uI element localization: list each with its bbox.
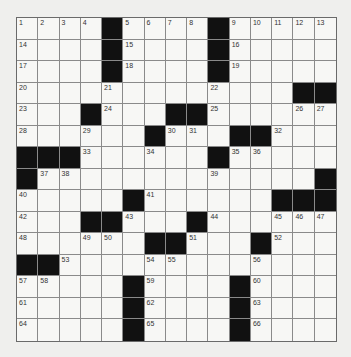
crossword-cell[interactable]: 14 [17,40,38,62]
crossword-cell[interactable] [187,83,208,105]
crossword-cell[interactable] [315,40,336,62]
crossword-cell[interactable] [102,169,123,191]
crossword-cell[interactable] [145,104,166,126]
crossword-cell[interactable]: 3 [60,18,81,40]
crossword-cell[interactable]: 24 [102,104,123,126]
crossword-cell[interactable]: 51 [187,233,208,255]
crossword-cell[interactable]: 22 [208,83,229,105]
crossword-cell[interactable] [166,61,187,83]
crossword-cell[interactable]: 18 [123,61,144,83]
crossword-cell[interactable]: 49 [81,233,102,255]
crossword-cell[interactable]: 16 [230,40,251,62]
crossword-cell[interactable] [166,298,187,320]
crossword-cell[interactable] [145,40,166,62]
crossword-cell[interactable] [166,212,187,234]
crossword-cell[interactable]: 36 [251,147,272,169]
crossword-cell[interactable] [230,104,251,126]
crossword-cell[interactable]: 20 [17,83,38,105]
crossword-cell[interactable] [81,276,102,298]
crossword-cell[interactable] [272,104,293,126]
crossword-cell[interactable]: 42 [17,212,38,234]
crossword-cell[interactable]: 15 [123,40,144,62]
crossword-cell[interactable]: 40 [17,190,38,212]
crossword-cell[interactable]: 29 [81,126,102,148]
crossword-cell[interactable]: 5 [123,18,144,40]
crossword-cell[interactable] [272,255,293,277]
crossword-cell[interactable]: 54 [145,255,166,277]
crossword-cell[interactable]: 23 [17,104,38,126]
crossword-cell[interactable] [187,298,208,320]
crossword-cell[interactable] [315,233,336,255]
crossword-cell[interactable] [293,169,314,191]
crossword-cell[interactable] [293,233,314,255]
crossword-cell[interactable] [315,276,336,298]
crossword-cell[interactable] [315,319,336,341]
crossword-cell[interactable] [123,255,144,277]
crossword-cell[interactable]: 13 [315,18,336,40]
crossword-cell[interactable] [208,319,229,341]
crossword-cell[interactable] [81,319,102,341]
crossword-cell[interactable] [272,319,293,341]
crossword-cell[interactable] [230,233,251,255]
crossword-cell[interactable]: 63 [251,298,272,320]
crossword-cell[interactable] [38,233,59,255]
crossword-cell[interactable] [102,298,123,320]
crossword-cell[interactable] [272,83,293,105]
crossword-cell[interactable] [208,298,229,320]
crossword-cell[interactable] [315,255,336,277]
crossword-cell[interactable] [166,169,187,191]
crossword-cell[interactable] [60,298,81,320]
crossword-cell[interactable] [272,40,293,62]
crossword-cell[interactable] [187,169,208,191]
crossword-cell[interactable] [123,147,144,169]
crossword-cell[interactable]: 2 [38,18,59,40]
crossword-cell[interactable] [38,61,59,83]
crossword-cell[interactable]: 48 [17,233,38,255]
crossword-cell[interactable] [187,276,208,298]
crossword-cell[interactable] [293,61,314,83]
crossword-cell[interactable] [81,169,102,191]
crossword-cell[interactable] [187,319,208,341]
crossword-cell[interactable] [251,212,272,234]
crossword-cell[interactable] [60,319,81,341]
crossword-cell[interactable] [123,126,144,148]
crossword-cell[interactable] [102,126,123,148]
crossword-cell[interactable]: 21 [102,83,123,105]
crossword-cell[interactable] [293,147,314,169]
crossword-cell[interactable] [38,104,59,126]
crossword-cell[interactable] [230,212,251,234]
crossword-cell[interactable] [38,83,59,105]
crossword-cell[interactable] [230,190,251,212]
crossword-cell[interactable]: 57 [17,276,38,298]
crossword-cell[interactable]: 4 [81,18,102,40]
crossword-cell[interactable] [81,40,102,62]
crossword-cell[interactable]: 38 [60,169,81,191]
crossword-cell[interactable] [208,255,229,277]
crossword-cell[interactable]: 35 [230,147,251,169]
crossword-cell[interactable]: 19 [230,61,251,83]
crossword-cell[interactable] [60,104,81,126]
crossword-cell[interactable] [208,233,229,255]
crossword-cell[interactable] [81,255,102,277]
crossword-cell[interactable]: 37 [38,169,59,191]
crossword-cell[interactable] [251,169,272,191]
crossword-cell[interactable] [123,169,144,191]
crossword-cell[interactable] [60,190,81,212]
crossword-cell[interactable] [145,83,166,105]
crossword-cell[interactable]: 33 [81,147,102,169]
crossword-cell[interactable] [166,276,187,298]
crossword-cell[interactable]: 50 [102,233,123,255]
crossword-cell[interactable] [272,61,293,83]
crossword-cell[interactable]: 61 [17,298,38,320]
crossword-cell[interactable] [60,276,81,298]
crossword-cell[interactable] [145,212,166,234]
crossword-cell[interactable] [293,298,314,320]
crossword-cell[interactable] [272,147,293,169]
crossword-cell[interactable]: 32 [272,126,293,148]
crossword-cell[interactable] [81,298,102,320]
crossword-cell[interactable] [81,190,102,212]
crossword-cell[interactable] [293,276,314,298]
crossword-cell[interactable] [208,190,229,212]
crossword-cell[interactable]: 65 [145,319,166,341]
crossword-cell[interactable] [315,61,336,83]
